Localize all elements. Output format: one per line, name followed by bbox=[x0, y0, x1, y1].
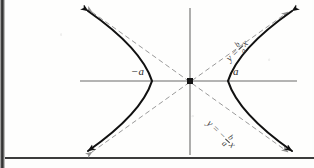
hyperbola-plot bbox=[0, 0, 314, 168]
vertex-label-negative-a: −a bbox=[131, 66, 144, 77]
hyperbola-figure: −a a y =bax y = −bax bbox=[0, 0, 314, 168]
vertex-label-positive-a: a bbox=[233, 66, 239, 77]
origin-dot bbox=[187, 78, 193, 84]
